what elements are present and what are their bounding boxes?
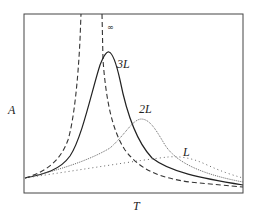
series-3L-curve <box>25 52 243 185</box>
label-2L: 2L <box>139 102 152 116</box>
y-axis-label: A <box>7 103 16 117</box>
label-L: L <box>182 145 190 159</box>
label-infinity: ∞ <box>107 23 114 32</box>
chart: ∞ 3L 2L L A T <box>0 0 253 220</box>
label-3L: 3L <box>116 57 130 71</box>
x-axis-label: T <box>133 199 141 213</box>
series-infinity-curve <box>25 14 243 187</box>
